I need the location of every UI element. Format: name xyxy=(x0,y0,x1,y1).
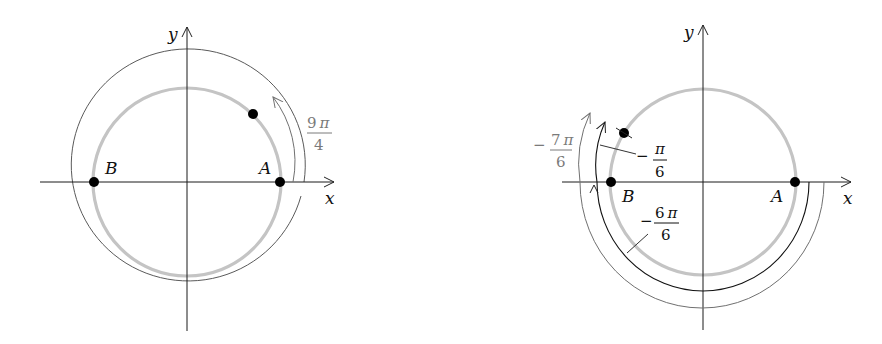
fraction-sign: − xyxy=(533,136,546,154)
fraction-numerator: 6π xyxy=(655,204,679,222)
label-b: B xyxy=(621,186,635,206)
fraction-sign: − xyxy=(640,212,653,230)
label-y: y xyxy=(683,22,694,42)
angle-arc-neg-7pi-6-inner xyxy=(596,122,809,291)
label-x: x xyxy=(325,188,335,208)
fraction-denominator: 6 xyxy=(661,226,671,244)
fraction-sign: − xyxy=(636,147,649,165)
fraction-denominator: 4 xyxy=(314,136,324,154)
label-x: x xyxy=(843,188,853,208)
point-b xyxy=(89,177,99,187)
label-y: y xyxy=(167,24,178,44)
left-diagram: B A x y 9π 4 xyxy=(40,24,335,331)
fraction-numerator: π xyxy=(654,140,666,158)
angle-label-9pi-4: 9π 4 xyxy=(307,114,332,154)
right-diagram: B A x y − 7π 6 − π 6 − 6π 6 xyxy=(533,22,853,330)
point-a xyxy=(790,177,800,187)
point-terminal xyxy=(248,109,258,119)
label-b: B xyxy=(104,158,118,178)
point-a xyxy=(275,177,285,187)
fraction-denominator: 6 xyxy=(556,153,566,171)
fraction-denominator: 6 xyxy=(655,163,665,181)
diagram-canvas: B A x y 9π 4 B A xyxy=(0,0,882,344)
label-a: A xyxy=(257,158,271,178)
label-a: A xyxy=(769,186,783,206)
angle-label-neg-pi-6: − π 6 xyxy=(636,140,667,181)
angle-label-neg-6pi-6: − 6π 6 xyxy=(640,204,679,244)
angle-label-neg-7pi-6: − 7π 6 xyxy=(533,131,575,171)
fraction-numerator: 9π xyxy=(307,114,331,132)
point-b xyxy=(606,177,616,187)
fraction-numerator: 7π xyxy=(551,131,575,149)
